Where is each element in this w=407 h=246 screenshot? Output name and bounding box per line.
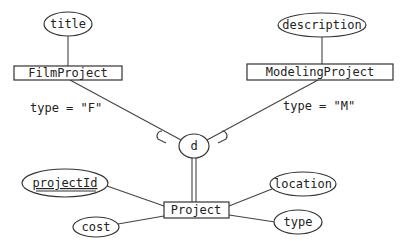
cost-connector [118,216,164,224]
svg-text:location: location [274,177,332,191]
attribute-location[interactable]: location [270,172,336,196]
entity-modelingproject[interactable]: ModelingProject [247,64,393,80]
subset-symbol-left [157,131,166,143]
projectid-connector [107,186,164,206]
svg-text:type: type [284,215,313,229]
svg-text:description: description [282,18,361,32]
attribute-description[interactable]: description [278,13,366,37]
svg-text:projectId: projectId [32,176,97,190]
svg-text:title: title [50,17,86,31]
disjoint-circle[interactable]: d [179,134,209,158]
svg-text:Project: Project [171,203,222,217]
predicate-modeling: type = "M" [283,99,355,113]
svg-text:cost: cost [82,220,111,234]
type-connector [229,215,275,222]
entity-filmproject[interactable]: FilmProject [14,66,122,80]
attribute-type[interactable]: type [274,210,322,234]
svg-text:d: d [190,139,197,153]
attribute-title[interactable]: title [44,12,92,36]
svg-text:ModelingProject: ModelingProject [266,65,374,79]
predicate-film: type = "F" [30,101,102,115]
svg-text:FilmProject: FilmProject [28,66,107,80]
location-connector [229,189,272,206]
er-diagram: title description FilmProject ModelingPr… [0,0,407,246]
attribute-cost[interactable]: cost [73,217,119,237]
attribute-projectid[interactable]: projectId [22,169,108,197]
entity-project[interactable]: Project [164,202,229,218]
